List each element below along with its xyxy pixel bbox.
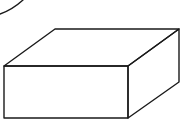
box-right-face [128, 29, 179, 118]
diagram-canvas: Rectangular prism (box) line drawing [0, 0, 183, 120]
box-drawing [0, 0, 183, 120]
box-front-face [4, 66, 128, 118]
partial-arc [0, 0, 23, 14]
